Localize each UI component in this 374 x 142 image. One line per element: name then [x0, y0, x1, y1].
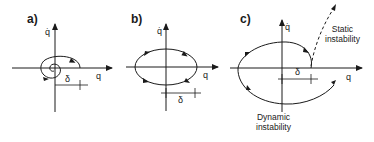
x-axis-label: q — [203, 71, 208, 80]
y-axis-label: q̇ — [45, 28, 50, 37]
panel-a — [12, 24, 112, 112]
y-axis-label: q̇ — [285, 23, 290, 32]
panel-b — [126, 24, 218, 111]
flow-arrow-icon — [245, 52, 250, 57]
flow-arrow-icon — [331, 80, 336, 85]
x-axis-label: q — [96, 72, 101, 81]
dynamic-instability-note: Dynamic instability — [256, 113, 291, 133]
panel-a-label: a) — [27, 13, 38, 25]
phase-portrait-diagram — [0, 0, 374, 142]
flow-arrow-icon — [303, 47, 309, 53]
static-instability-note: Static instability — [325, 25, 360, 45]
x-axis-label: q — [346, 73, 351, 82]
delta-label: δ — [178, 96, 183, 105]
panel-c-label: c) — [240, 13, 251, 25]
panel-b-label: b) — [131, 13, 142, 25]
delta-label: δ — [295, 68, 300, 77]
spiral-trajectory — [41, 56, 80, 78]
flow-arrow-icon — [246, 85, 251, 90]
diverging-trajectory — [238, 42, 334, 104]
arrow-head-icon — [331, 4, 336, 11]
delta-label: δ — [65, 75, 70, 84]
y-axis-label: q̇ — [157, 27, 162, 36]
